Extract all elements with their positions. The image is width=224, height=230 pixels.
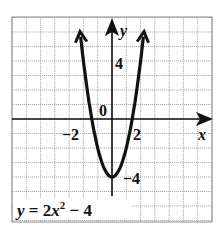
x-axis-label: x bbox=[197, 126, 206, 143]
parabola-chart: y x 0 4 −2 2 −4 y = 2x2 − 4 bbox=[0, 0, 224, 230]
tick-label-x-2: 2 bbox=[133, 126, 141, 143]
tick-label-y-4: 4 bbox=[115, 55, 123, 72]
equation-label: y = 2x2 − 4 bbox=[15, 199, 92, 220]
tick-label-y-neg4: −4 bbox=[123, 170, 140, 187]
y-axis-label: y bbox=[118, 22, 128, 40]
tick-label-x-neg2: −2 bbox=[62, 126, 79, 143]
origin-label: 0 bbox=[99, 102, 107, 119]
